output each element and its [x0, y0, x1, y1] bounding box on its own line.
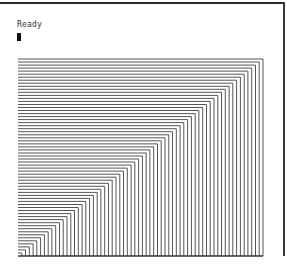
- staircase-line: [18, 120, 188, 256]
- staircase-line: [18, 241, 37, 256]
- staircase-line: [18, 229, 52, 256]
- staircase-line: [18, 223, 60, 256]
- staircase-line: [18, 205, 82, 257]
- staircase-line: [18, 211, 75, 257]
- staircase-line: [18, 126, 180, 256]
- staircase-line: [18, 162, 135, 256]
- staircase-line: [18, 59, 263, 256]
- staircase-lines: [18, 59, 263, 256]
- staircase-line: [18, 108, 203, 257]
- staircase-line: [18, 83, 233, 256]
- staircase-line: [18, 180, 112, 256]
- staircase-line: [18, 144, 158, 256]
- staircase-line: [18, 89, 225, 256]
- staircase-line: [18, 247, 29, 256]
- staircase-line: [18, 65, 256, 256]
- staircase-graphic: [0, 0, 287, 274]
- staircase-line: [18, 150, 150, 256]
- staircase-line: [18, 186, 105, 256]
- staircase-line: [18, 168, 127, 256]
- staircase-line: [18, 101, 210, 256]
